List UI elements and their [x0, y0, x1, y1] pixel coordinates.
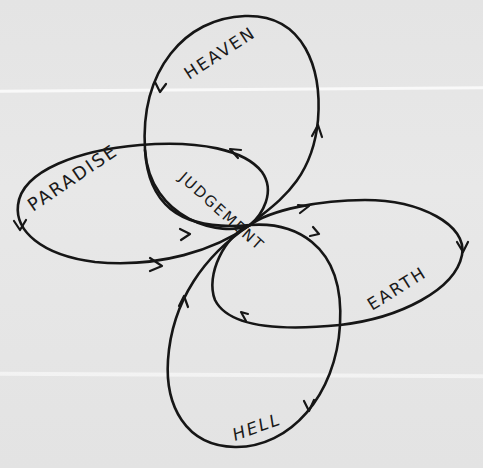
label-hell: HELL [230, 409, 284, 445]
arrow-heaven-down [155, 82, 166, 92]
arrow-earth-top [298, 205, 309, 213]
arrow-hell-entry [310, 227, 319, 236]
loop-hell [168, 225, 341, 447]
arrow-judgement [180, 229, 190, 240]
judgement-loop-diagram: HEAVEN PARADISE JUDGEMENT EARTH HELL [0, 0, 483, 468]
arrow-hell-right [304, 400, 314, 411]
label-earth: EARTH [364, 262, 431, 314]
label-paradise: PARADISE [23, 140, 121, 216]
label-heaven: HEAVEN [180, 22, 259, 83]
